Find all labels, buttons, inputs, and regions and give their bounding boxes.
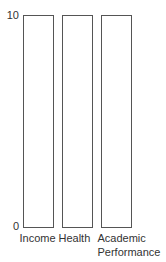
y-tick-label-min: 0 bbox=[13, 220, 19, 232]
bar-2 bbox=[102, 16, 132, 228]
y-tick-label-max: 10 bbox=[7, 9, 19, 21]
category-label-1: Health bbox=[59, 232, 91, 244]
category-label-line: Income bbox=[20, 232, 56, 244]
category-label-2: AcademicPerformance bbox=[98, 232, 161, 258]
bar-0 bbox=[24, 16, 54, 228]
category-label-line: Academic bbox=[98, 232, 147, 244]
category-label-0: Income bbox=[20, 232, 56, 244]
bar-1 bbox=[63, 16, 93, 228]
bars-group bbox=[24, 16, 132, 228]
bar-chart: 10 0 IncomeHealthAcademicPerformance bbox=[0, 0, 166, 262]
category-label-line: Performance bbox=[98, 246, 161, 258]
category-label-line: Health bbox=[59, 232, 91, 244]
category-labels: IncomeHealthAcademicPerformance bbox=[20, 232, 161, 258]
